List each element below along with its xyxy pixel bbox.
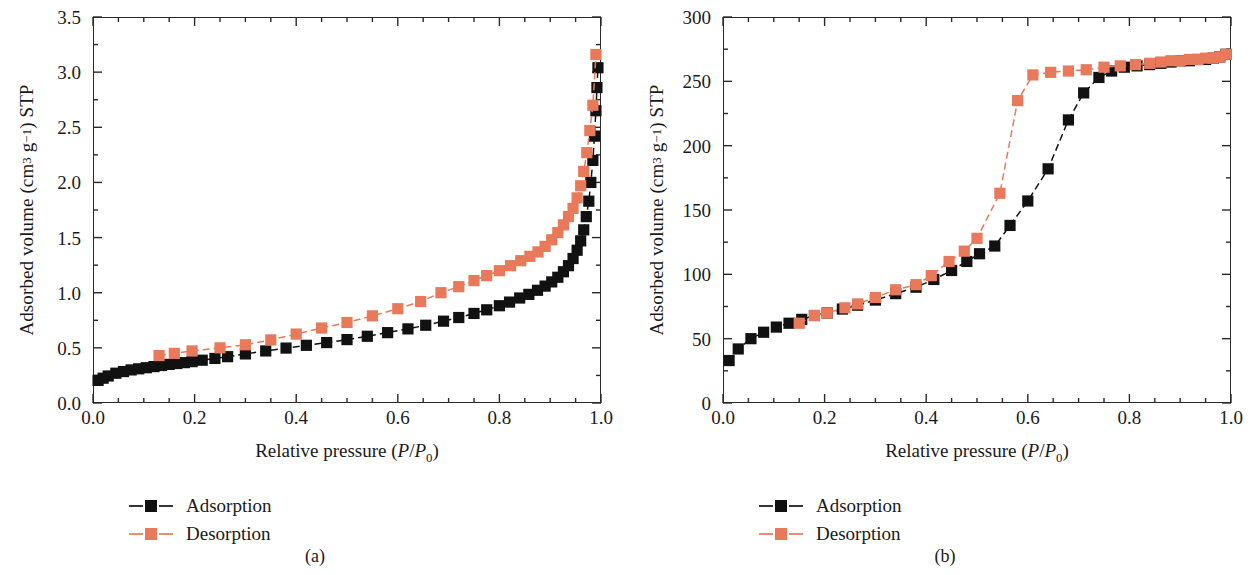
panel-b: Adsorbed volume (cm3 g−1) STP 0501001502…: [630, 0, 1260, 575]
x-tick-label: 0.4: [284, 408, 308, 427]
x-tick-label: 1.0: [589, 408, 613, 427]
y-axis-ticks-b: 050100150200250300: [630, 17, 723, 403]
y-tick-label: 0.0: [57, 394, 81, 413]
legend-b: AdsorptionDesorption: [758, 492, 902, 548]
plot-canvas-a: [93, 17, 601, 403]
legend-item: Adsorption: [128, 492, 272, 520]
x-tick-label: 0.8: [488, 408, 512, 427]
y-tick-label: 200: [683, 136, 712, 155]
plot-area-a: [93, 17, 601, 403]
y-tick-label: 1.0: [57, 283, 81, 302]
y-tick-label: 2.0: [57, 173, 81, 192]
y-tick-label: 150: [683, 201, 712, 220]
x-tick-label: 0.2: [183, 408, 207, 427]
plot-canvas-b: [723, 17, 1231, 403]
y-tick-label: 0: [702, 394, 712, 413]
legend-item: Adsorption: [758, 492, 902, 520]
legend-a: AdsorptionDesorption: [128, 492, 272, 548]
x-tick-label: 0.6: [386, 408, 410, 427]
y-tick-label: 3.5: [57, 8, 81, 27]
panel-caption-b: (b): [630, 546, 1260, 567]
legend-label: Desorption: [816, 523, 900, 545]
figure-root: Adsorbed volume (cm3 g−1) STP 0.00.51.01…: [0, 0, 1260, 575]
legend-item: Desorption: [128, 520, 272, 548]
x-tick-label: 0.0: [81, 408, 105, 427]
x-axis-label-a: Relative pressure (P/P0): [93, 440, 601, 466]
legend-label: Desorption: [186, 523, 270, 545]
y-tick-label: 50: [692, 329, 711, 348]
legend-label: Adsorption: [186, 495, 272, 517]
legend-item: Desorption: [758, 520, 902, 548]
x-tick-label: 0.4: [914, 408, 938, 427]
y-tick-label: 250: [683, 72, 712, 91]
legend-marker-icon: [128, 497, 174, 515]
x-axis-ticks-b: 0.00.20.40.60.81.0: [723, 408, 1231, 434]
legend-marker-icon: [128, 525, 174, 543]
legend-marker-icon: [758, 525, 804, 543]
y-tick-label: 0.5: [57, 338, 81, 357]
legend-label: Adsorption: [816, 495, 902, 517]
legend-marker-icon: [758, 497, 804, 515]
y-tick-label: 1.5: [57, 228, 81, 247]
plot-area-b: [723, 17, 1231, 403]
x-tick-label: 0.6: [1016, 408, 1040, 427]
y-tick-label: 2.5: [57, 118, 81, 137]
x-tick-label: 1.0: [1219, 408, 1243, 427]
x-tick-label: 0.0: [711, 408, 735, 427]
x-tick-label: 0.8: [1118, 408, 1142, 427]
y-axis-ticks-a: 0.00.51.01.52.02.53.03.5: [0, 17, 93, 403]
y-tick-label: 300: [683, 8, 712, 27]
x-tick-label: 0.2: [813, 408, 837, 427]
y-tick-label: 3.0: [57, 63, 81, 82]
x-axis-ticks-a: 0.00.20.40.60.81.0: [93, 408, 601, 434]
panel-caption-a: (a): [0, 546, 630, 567]
y-tick-label: 100: [683, 265, 712, 284]
panel-a: Adsorbed volume (cm3 g−1) STP 0.00.51.01…: [0, 0, 630, 575]
x-axis-label-b: Relative pressure (P/P0): [723, 440, 1231, 466]
